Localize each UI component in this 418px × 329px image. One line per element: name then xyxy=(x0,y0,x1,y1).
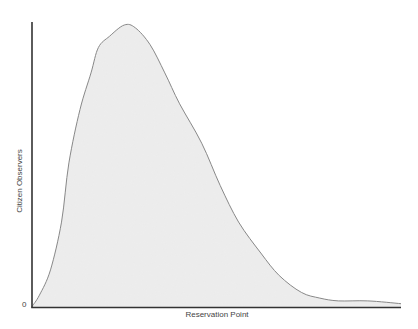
y-axis-label: Citizen Observers xyxy=(15,149,24,213)
distribution-area xyxy=(32,24,401,307)
y-tick-zero: 0 xyxy=(22,300,26,309)
x-axis-label: Reservation Point xyxy=(185,310,248,319)
chart-canvas xyxy=(0,0,418,329)
